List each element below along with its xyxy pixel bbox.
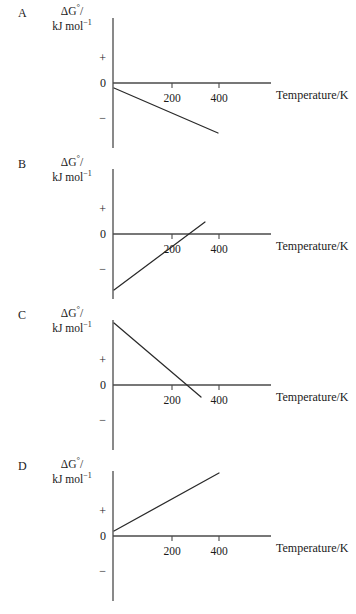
data-line-c xyxy=(114,323,201,397)
data-line-d xyxy=(114,473,219,531)
data-line-b xyxy=(114,222,205,290)
panel-c: CΔG°/kJ mol−1+0−200400Temperature/K xyxy=(0,302,356,456)
plot-area xyxy=(0,302,356,456)
panel-d: DΔG°/kJ mol−1+0−200400Temperature/K xyxy=(0,453,356,607)
plot-area xyxy=(0,151,356,305)
data-line-a xyxy=(114,88,218,133)
panel-b: BΔG°/kJ mol−1+0−200400Temperature/K xyxy=(0,151,356,305)
plot-area xyxy=(0,453,356,607)
panel-a: AΔG°/kJ mol−1+0−200400Temperature/K xyxy=(0,0,356,154)
figure-root: { "figure": { "axis_labels": { "y_line1_… xyxy=(0,0,356,614)
plot-area xyxy=(0,0,356,154)
